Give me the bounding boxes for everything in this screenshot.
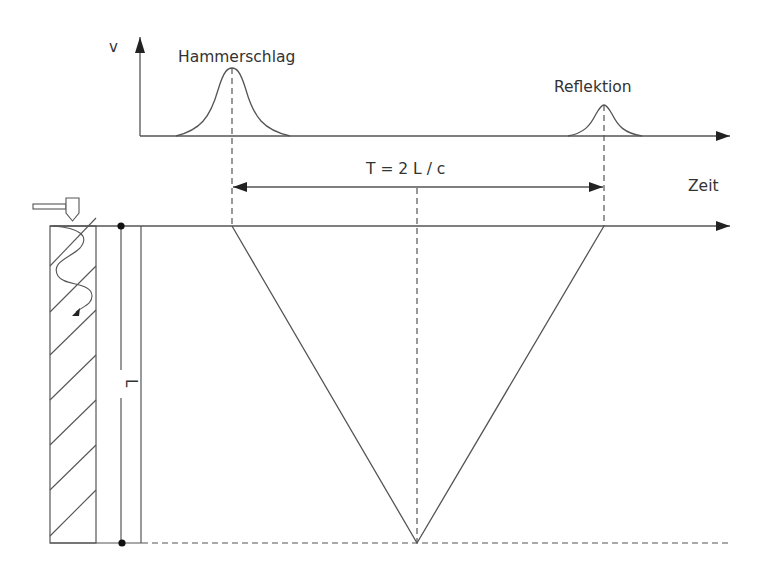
reflection-pulse-label: Reflektion [554,78,632,96]
stress-wave-icon [53,226,92,312]
wave-travel-path [232,226,604,543]
pile-integrity-test-diagram: v Hammerschlag Reflektion T = 2 L / c Ze… [0,0,758,575]
wave-arrowhead-icon [72,308,80,316]
hammer-icon [33,198,79,221]
period-formula: T = 2 L / c [365,160,445,178]
velocity-plot: v Hammerschlag Reflektion [109,37,730,136]
reflection-pulse-curve [568,105,642,136]
length-dimension-bottom-dot [118,539,125,546]
period-dimension: T = 2 L / c [233,160,603,187]
pile-length-label: L [122,379,140,388]
v-axis-label: v [109,38,118,56]
hammer-pulse-label: Hammerschlag [178,48,295,66]
time-axis-label: Zeit [688,177,719,195]
pile-schematic: L [33,198,142,547]
guide-lines [142,68,730,543]
length-dimension-top-dot [117,222,124,229]
hammer-pulse-curve [176,68,290,136]
